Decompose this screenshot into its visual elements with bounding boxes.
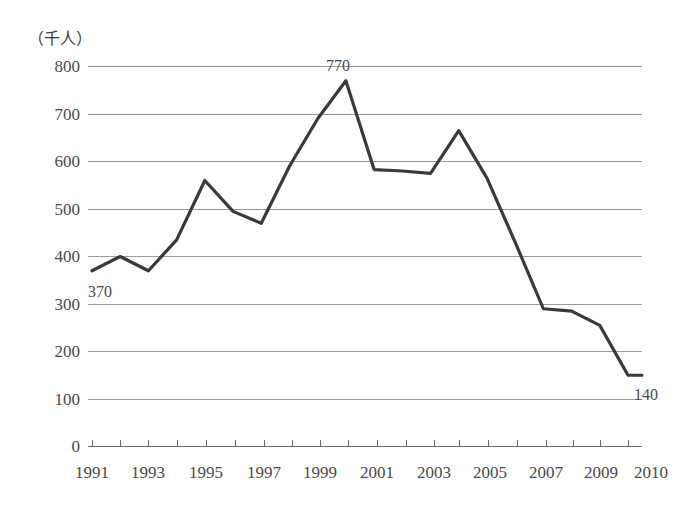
data-series-line — [92, 81, 642, 376]
xtick-label-2001: 2001 — [360, 463, 394, 482]
y-unit-label: （千人） — [28, 30, 92, 47]
x-axis — [88, 440, 642, 447]
y-tick-labels: 800 700 600 500 400 300 200 100 0 — [55, 57, 81, 456]
annotation-peak-770: 770 — [326, 57, 350, 74]
gridlines — [88, 67, 642, 400]
ytick-label-500: 500 — [55, 200, 81, 219]
ytick-label-400: 400 — [55, 247, 81, 266]
ytick-label-100: 100 — [55, 390, 81, 409]
xtick-label-2003: 2003 — [417, 463, 451, 482]
ytick-label-800: 800 — [55, 57, 81, 76]
chart-page: （千人） 800 700 600 500 400 300 200 100 0 1… — [0, 0, 699, 513]
xtick-label-1995: 1995 — [189, 463, 223, 482]
xtick-label-2009: 2009 — [584, 463, 618, 482]
x-tick-labels: 1991 1993 1995 1997 1999 2001 2003 2005 … — [75, 463, 668, 482]
xtick-label-1993: 1993 — [131, 463, 165, 482]
xtick-label-2010: 2010 — [634, 463, 668, 482]
ytick-label-200: 200 — [55, 342, 81, 361]
annotation-start-370: 370 — [88, 283, 112, 300]
xtick-label-1999: 1999 — [303, 463, 337, 482]
line-chart: （千人） 800 700 600 500 400 300 200 100 0 1… — [0, 0, 699, 513]
xtick-label-2005: 2005 — [473, 463, 507, 482]
ytick-label-700: 700 — [55, 105, 81, 124]
annotation-end-140: 140 — [634, 386, 658, 403]
xtick-label-1991: 1991 — [75, 463, 109, 482]
ytick-label-300: 300 — [55, 295, 81, 314]
xtick-label-2007: 2007 — [529, 463, 564, 482]
ytick-label-600: 600 — [55, 152, 81, 171]
xtick-label-1997: 1997 — [247, 463, 282, 482]
ytick-label-0: 0 — [72, 437, 81, 456]
